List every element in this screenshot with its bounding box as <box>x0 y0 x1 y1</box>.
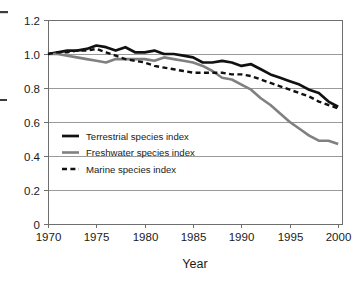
x-tick-label: 1995 <box>278 231 304 243</box>
x-tick-label: 1990 <box>229 231 255 243</box>
x-tick-label: 1980 <box>133 231 159 243</box>
x-tick-label: 1985 <box>181 231 207 243</box>
y-tick-label: 0.8 <box>24 83 40 95</box>
x-tick-label: 1970 <box>36 231 62 243</box>
scan-artifact-top <box>0 11 8 13</box>
y-tick-label: 1.0 <box>24 49 40 61</box>
x-axis-title: Year <box>182 257 207 271</box>
y-tick-label: 0 <box>34 219 40 231</box>
legend-label: Marine species index <box>86 164 176 175</box>
y-tick-label: 1.2 <box>24 15 40 27</box>
legend-label: Terrestrial species index <box>86 131 189 142</box>
x-tick-label: 2000 <box>326 231 352 243</box>
y-tick-label: 0.2 <box>24 185 40 197</box>
x-tick-label: 1975 <box>84 231 110 243</box>
chart-canvas: 00.20.40.60.81.01.2 19701975198019851990… <box>0 0 355 282</box>
legend-label: Freshwater species index <box>86 147 195 158</box>
species-index-line-chart: 00.20.40.60.81.01.2 19701975198019851990… <box>0 0 355 282</box>
y-tick-label: 0.4 <box>24 151 41 163</box>
scan-artifact-middle <box>0 99 7 101</box>
y-tick-label: 0.6 <box>24 117 40 129</box>
